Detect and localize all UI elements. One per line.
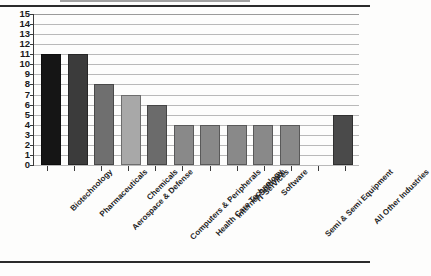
bar — [68, 54, 88, 165]
bar-slot — [250, 14, 277, 165]
bar — [280, 125, 300, 165]
bar-chart: 1514131211109876543210 BiotechnologyPhar… — [0, 10, 370, 240]
bar-slot — [330, 14, 357, 165]
y-tick-label: 4 — [25, 120, 30, 130]
bar-slot — [277, 14, 304, 165]
y-tick-label: 15 — [19, 9, 30, 19]
plot-area: 1514131211109876543210 — [33, 14, 359, 166]
y-tick-label: 14 — [19, 19, 30, 29]
bar — [253, 125, 273, 165]
page-rule-top — [0, 5, 370, 7]
bar — [147, 105, 167, 165]
bar — [174, 125, 194, 165]
y-tick-label: 12 — [19, 39, 30, 49]
y-tick-label: 1 — [25, 150, 30, 160]
bar-slot — [91, 14, 118, 165]
bar — [41, 54, 61, 165]
y-tick-label: 3 — [25, 130, 30, 140]
y-tick-label: 13 — [19, 29, 30, 39]
bar — [94, 84, 114, 165]
y-tick-label: 7 — [25, 90, 30, 100]
bar-slot — [38, 14, 65, 165]
bar — [333, 115, 353, 165]
y-tick-label: 0 — [25, 160, 30, 170]
page-top-text-sliver — [60, 0, 250, 2]
y-tick-label: 5 — [25, 110, 30, 120]
bar-series — [34, 14, 359, 165]
y-tick-label: 2 — [25, 140, 30, 150]
bar-slot — [144, 14, 171, 165]
bar-slot — [118, 14, 145, 165]
y-tick-label: 9 — [25, 70, 30, 80]
bar-slot-empty — [303, 14, 330, 165]
y-tick-label: 10 — [19, 60, 30, 70]
bar-slot — [171, 14, 198, 165]
bar-slot — [224, 14, 251, 165]
bar-slot — [197, 14, 224, 165]
bar — [200, 125, 220, 165]
y-tick-label: 6 — [25, 100, 30, 110]
bar — [227, 125, 247, 165]
x-axis-category-labels: BiotechnologyPharmaceuticalsAerospace & … — [33, 168, 359, 268]
bar-slot — [65, 14, 92, 165]
bar — [121, 95, 141, 165]
y-tick-label: 11 — [20, 50, 30, 60]
y-tick-label: 8 — [25, 80, 30, 90]
x-tick-label: Semi & Semi Equipment — [324, 168, 395, 239]
